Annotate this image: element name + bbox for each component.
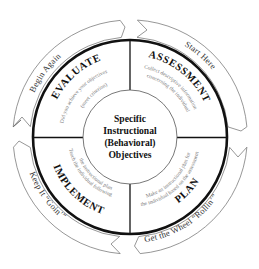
center-line: (Behavioral)	[104, 137, 155, 149]
instructional-cycle-diagram: Start Here Get the Wheel “Rollin’” Keep …	[0, 0, 259, 269]
center-line: Instructional	[103, 125, 157, 136]
center-line: Specific	[114, 113, 147, 124]
center-line: Objectives	[108, 149, 151, 160]
